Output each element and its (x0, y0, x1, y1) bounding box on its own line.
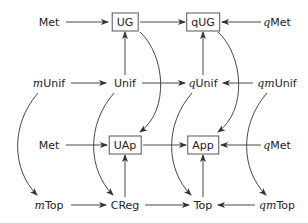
node-prefix: qm (259, 199, 276, 212)
node-uap: UAp (109, 136, 142, 155)
node-ug: UG (112, 13, 139, 32)
node-label: Met (39, 16, 60, 29)
node-prefix: q (263, 139, 270, 152)
node-label: App (192, 139, 214, 152)
node-qunif: qUnif (189, 77, 218, 90)
edge-munif-to-mtop (18, 93, 38, 195)
node-label: Top (276, 199, 295, 212)
node-label: Unif (43, 77, 65, 90)
node-label: Met (270, 16, 291, 29)
node-qug: qUG (186, 13, 220, 32)
node-prefix: qm (257, 77, 274, 90)
node-label: UAp (114, 139, 137, 152)
node-munif: mUnif (33, 77, 65, 90)
edge-qug-to-app (218, 32, 239, 132)
node-prefix: q (189, 77, 196, 90)
node-prefix: m (35, 199, 45, 212)
node-label: CReg (111, 199, 140, 212)
node-qmet1: qMet (263, 16, 291, 29)
node-unif: Unif (114, 77, 136, 90)
node-met1: Met (39, 16, 60, 29)
node-qmtop: qmTop (259, 199, 295, 212)
node-prefix: q (263, 16, 270, 29)
edge-ug-to-uap (140, 32, 161, 132)
node-mtop: mTop (35, 199, 64, 212)
node-label: Met (270, 139, 291, 152)
node-label: Top (45, 199, 64, 212)
node-label: qUG (191, 16, 215, 29)
node-label: Unif (114, 77, 136, 90)
diagram-edges (0, 0, 308, 223)
node-label: Met (39, 139, 60, 152)
node-qmet2: qMet (263, 139, 291, 152)
node-label: Unif (196, 77, 218, 90)
node-label: Top (194, 199, 213, 212)
node-creg: CReg (111, 199, 140, 212)
node-label: Unif (275, 77, 297, 90)
node-top: Top (194, 199, 213, 212)
node-label: UG (117, 16, 134, 29)
node-prefix: m (33, 77, 43, 90)
node-qmunif: qmUnif (257, 77, 296, 90)
node-met2: Met (39, 139, 60, 152)
node-app: App (187, 136, 219, 155)
